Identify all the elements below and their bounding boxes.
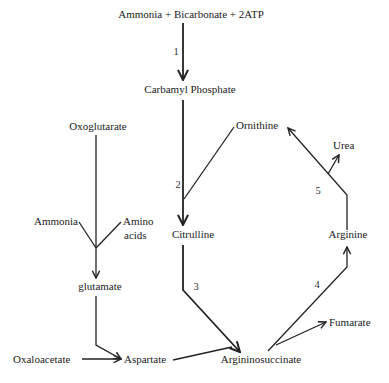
arrow-argininosuccinate-to-arginine — [268, 247, 347, 351]
urea-cycle-diagram: Ammonia + Bicarbonate + 2ATP Carbamyl Ph… — [0, 0, 389, 383]
fumarate-label: Fumarate — [329, 316, 371, 328]
reactants-label: Ammonia + Bicarbonate + 2ATP — [118, 8, 264, 20]
carbamyl-phosphate-label: Carbamyl Phosphate — [144, 83, 235, 95]
step-4-label: 4 — [314, 279, 320, 290]
aspartate-label: Aspartate — [124, 353, 166, 365]
citrulline-label: Citrulline — [172, 228, 214, 240]
urea-label: Urea — [333, 139, 354, 151]
step-3-label: 3 — [193, 281, 198, 292]
oxoglutarate-label: Oxoglutarate — [69, 120, 127, 132]
step-2-label: 2 — [175, 179, 180, 190]
ornithine-label: Ornithine — [236, 119, 278, 131]
arrow-to-urea — [328, 155, 339, 174]
amino-acids-label-line2: acids — [124, 229, 147, 241]
step-1-label: 1 — [173, 46, 178, 57]
oxaloacetate-label: Oxaloacetate — [13, 353, 71, 365]
arrow-to-fumarate — [276, 322, 326, 345]
amino-acids-label-line1: Amino — [123, 215, 154, 227]
ammonia-label: Ammonia — [34, 215, 78, 227]
line-ammonia-to-glutamate — [79, 222, 96, 248]
arginine-label: Arginine — [329, 228, 368, 240]
arrow-glutamate-to-aspartate — [96, 296, 121, 359]
glutamate-label: glutamate — [78, 280, 121, 292]
step-5-label: 5 — [315, 185, 320, 196]
arrow-citrulline-to-argininosuccinate — [183, 245, 240, 352]
line-amino-acids-to-glutamate — [96, 222, 121, 248]
line-ornithine-to-citrulline — [184, 127, 234, 199]
argininosuccinate-label: Argininosuccinate — [221, 353, 302, 365]
